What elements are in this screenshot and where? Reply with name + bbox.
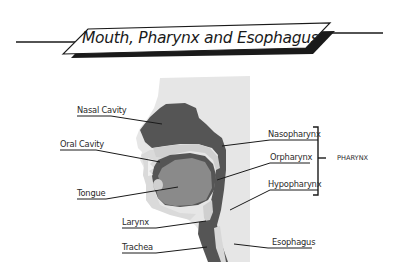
lip-shape: [153, 179, 163, 191]
label-nasal-cavity: Nasal Cavity: [77, 105, 127, 115]
label-tongue: Tongue: [77, 188, 105, 198]
label-esophagus: Esophagus: [272, 237, 315, 247]
label-nasopharynx: Nasopharynx: [268, 129, 321, 139]
label-hypopharynx: Hypopharynx: [268, 179, 321, 189]
anatomy-diagram: Mouth, Pharynx and Esophagus Nasal Cavit…: [0, 0, 394, 276]
label-larynx: Larynx: [122, 217, 149, 227]
label-pharynx: PHARYNX: [337, 154, 368, 162]
label-oral-cavity: Oral Cavity: [60, 139, 104, 149]
page-title: Mouth, Pharynx and Esophagus: [82, 29, 319, 47]
label-trachea: Trachea: [122, 242, 153, 252]
label-oropharynx: Orpharynx: [270, 152, 312, 162]
